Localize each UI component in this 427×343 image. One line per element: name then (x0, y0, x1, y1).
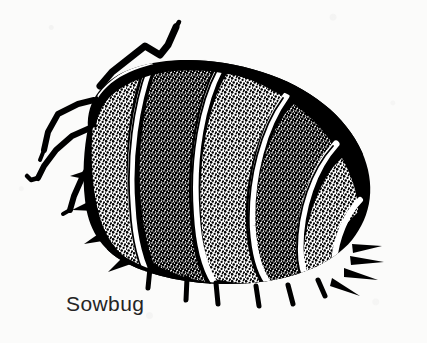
sowbug-figure: Sowbug (0, 0, 427, 343)
carapace (84, 60, 371, 293)
uropod-2 (350, 256, 384, 265)
leg-stub-1 (148, 268, 150, 288)
leg-front-left-tarsus (40, 150, 44, 160)
figure-caption: Sowbug (66, 293, 144, 314)
uropod-1 (352, 244, 382, 253)
uropod-3 (344, 268, 378, 280)
antenna-tip (176, 22, 179, 27)
uropod-4 (330, 278, 360, 296)
leg-rear-left-tarsus (63, 210, 70, 214)
leg-stub-3 (216, 283, 218, 304)
leg-stub-5 (288, 285, 293, 304)
sowbug-illustration (0, 0, 427, 343)
leg-stub-6 (318, 280, 325, 296)
leg-stub-4 (256, 286, 259, 306)
leg-mid-left-tarsus (27, 176, 38, 180)
leg-stub-2 (186, 278, 187, 300)
